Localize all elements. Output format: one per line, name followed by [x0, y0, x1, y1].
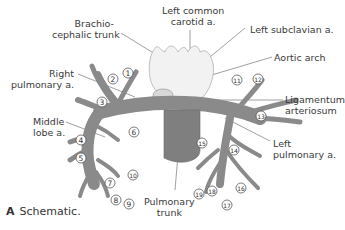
label-line: lobe a.: [33, 127, 65, 138]
label-brachiocephalic-trunk: Brachio- cephalic trunk: [52, 18, 114, 40]
svg-text:5: 5: [79, 154, 84, 163]
label-right-pulmonary: Right pulmonary a.: [10, 68, 74, 90]
label-line: trunk: [144, 207, 195, 218]
label-line: Brachio-: [52, 18, 114, 29]
svg-text:13: 13: [257, 113, 265, 120]
label-line: Left: [273, 138, 336, 149]
svg-text:6: 6: [132, 128, 137, 137]
svg-text:12: 12: [254, 76, 262, 83]
label-left-subclavian: Left subclavian a.: [250, 24, 334, 35]
aortic-arch: [149, 46, 213, 102]
svg-text:10: 10: [129, 172, 137, 179]
svg-text:3: 3: [100, 98, 105, 107]
label-left-pulmonary: Left pulmonary a.: [273, 138, 336, 160]
label-line: pulmonary a.: [273, 149, 336, 160]
label-line: Right: [10, 68, 74, 79]
label-left-common-carotid: Left common carotid a.: [162, 5, 224, 27]
panel-letter: A: [6, 205, 15, 218]
caption-text: Schematic.: [20, 205, 81, 218]
svg-text:7: 7: [108, 179, 113, 188]
svg-text:16: 16: [237, 185, 245, 192]
label-line: arteriosum: [285, 105, 345, 116]
label-ligamentum-arteriosum: Ligamentum arteriosum: [285, 94, 345, 116]
label-line: carotid a.: [162, 16, 224, 27]
svg-text:2: 2: [111, 75, 116, 84]
svg-text:18: 18: [208, 188, 216, 195]
svg-text:17: 17: [223, 202, 231, 209]
svg-text:4: 4: [79, 136, 84, 145]
svg-text:1: 1: [126, 69, 131, 78]
svg-text:9: 9: [127, 200, 132, 209]
svg-text:8: 8: [114, 196, 119, 205]
label-pulmonary-trunk: Pulmonary trunk: [144, 196, 195, 218]
svg-text:11: 11: [233, 77, 241, 84]
svg-text:15: 15: [198, 140, 206, 147]
label-aortic-arch: Aortic arch: [274, 52, 325, 63]
figure-caption: ASchematic.: [6, 205, 81, 218]
label-line: pulmonary a.: [10, 79, 74, 90]
label-line: Pulmonary: [144, 196, 195, 207]
pulmonary-trunk: [164, 110, 200, 162]
label-middle-lobe: Middle lobe a.: [33, 116, 65, 138]
label-line: Ligamentum: [285, 94, 345, 105]
label-line: Middle: [33, 116, 65, 127]
label-line: cephalic trunk: [52, 29, 114, 40]
label-line: Left common: [162, 5, 224, 16]
svg-text:14: 14: [230, 147, 238, 154]
svg-text:19: 19: [195, 191, 203, 198]
